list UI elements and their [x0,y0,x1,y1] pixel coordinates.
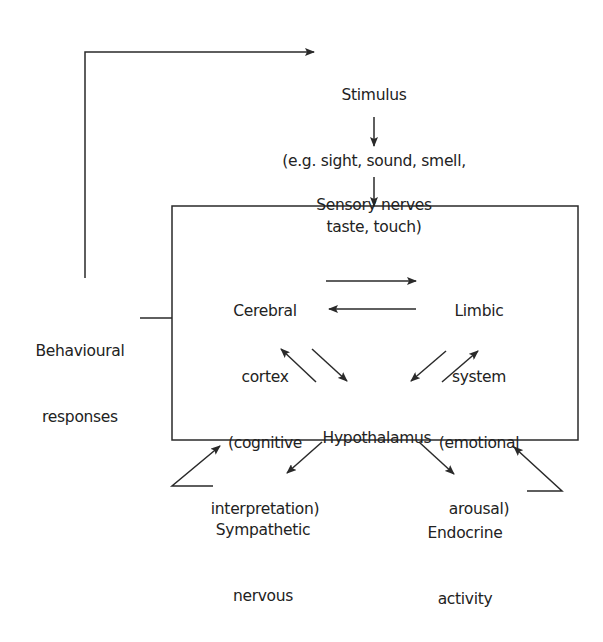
endocrine-node: Endocrine activity (e.g. glucocorticoid … [390,478,540,642]
sympathetic-node: Sympathetic nervous activity (fight or f… [198,475,328,642]
behavioural-responses-node: Behavioural responses [20,296,140,450]
hypothalamus-node: Hypothalamus [307,383,447,471]
sensory-nerves-node: Sensory nerves [294,150,454,238]
